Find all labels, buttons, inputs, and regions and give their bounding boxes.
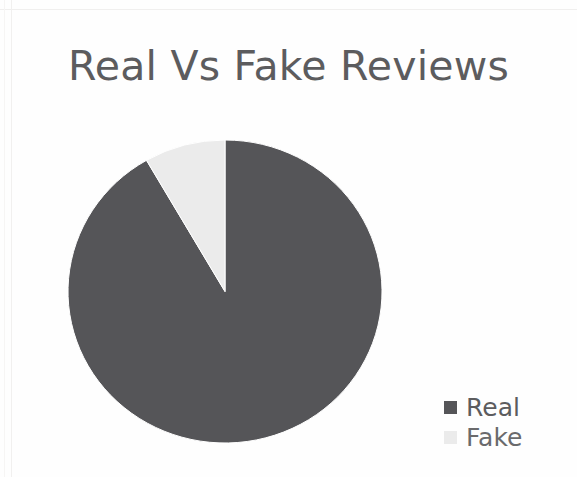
legend-item-real[interactable]: Real <box>444 392 564 422</box>
legend-swatch-real-icon <box>444 401 457 414</box>
legend-swatch-fake-icon <box>444 431 457 444</box>
legend-item-fake[interactable]: Fake <box>444 422 564 452</box>
legend-label-fake: Fake <box>466 425 522 450</box>
pie-chart <box>68 140 382 443</box>
legend-label-real: Real <box>466 395 520 420</box>
chart-legend: Real Fake <box>444 392 564 452</box>
scan-edge-top <box>0 9 577 10</box>
chart-title: Real Vs Fake Reviews <box>0 42 577 90</box>
chart-canvas: Real Vs Fake Reviews Real Fake <box>0 0 577 477</box>
pie-chart-svg <box>68 140 382 443</box>
